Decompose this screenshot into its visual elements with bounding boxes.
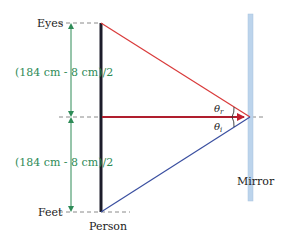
mirror-label: Mirror	[237, 175, 275, 188]
feet-label: Feet	[38, 206, 63, 219]
mirror	[248, 14, 253, 201]
reflected-ray	[101, 23, 250, 117]
theta-i-arc	[232, 117, 234, 127]
theta-r-arc	[232, 107, 234, 117]
dimension-label-upper: (184 cm - 8 cm)/2	[15, 66, 113, 79]
dimension-label-lower: (184 cm - 8 cm)/2	[15, 156, 113, 169]
theta-r-label: θr	[214, 103, 224, 116]
incident-ray	[101, 117, 250, 212]
eyes-label: Eyes	[37, 17, 64, 30]
person-label: Person	[89, 220, 127, 233]
mirror-diagram: Eyes Feet Person Mirror (184 cm - 8 cm)/…	[0, 0, 284, 239]
theta-i-label: θi	[214, 121, 222, 134]
